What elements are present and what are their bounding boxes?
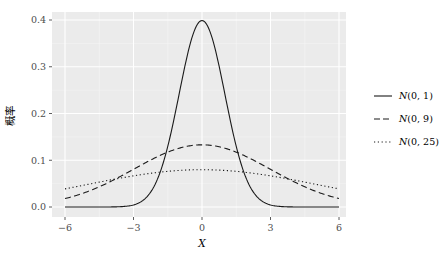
y-tick-label: 0.1 (31, 155, 46, 166)
x-tick-label: 0 (199, 222, 205, 233)
legend: N(0, 1)N(0, 9)N(0, 25) (374, 90, 439, 147)
x-axis-ticks: −6−3036 (58, 217, 342, 233)
y-tick-label: 0.2 (31, 108, 46, 119)
y-axis-ticks: 0.00.10.20.30.4 (31, 14, 52, 212)
legend-label: N(0, 1) (398, 90, 433, 101)
y-tick-label: 0.3 (31, 61, 46, 72)
x-tick-label: 3 (267, 222, 273, 233)
x-tick-label: −3 (126, 222, 140, 233)
y-tick-label: 0.0 (31, 201, 46, 212)
x-tick-label: 6 (336, 222, 342, 233)
plot-panel (52, 12, 346, 217)
x-tick-label: −6 (58, 222, 72, 233)
x-axis-label: X (197, 237, 206, 249)
y-tick-label: 0.4 (31, 14, 46, 25)
legend-label: N(0, 25) (398, 136, 439, 147)
y-axis-label: 概率 (4, 106, 16, 126)
legend-label: N(0, 9) (398, 113, 433, 124)
chart: 0.00.10.20.30.4 −6−3036 X 概率 N(0, 1)N(0,… (0, 0, 445, 256)
